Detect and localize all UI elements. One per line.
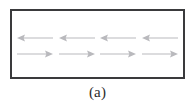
rightward-arrow (141, 48, 179, 60)
leftward-arrow (58, 32, 96, 44)
rightward-arrow (16, 48, 54, 60)
figure-border-box (10, 9, 185, 79)
leftward-arrow (141, 32, 179, 44)
rightward-arrow (99, 48, 137, 60)
figure-caption: (a) (0, 82, 195, 102)
arrow-row-rightward (16, 47, 179, 61)
arrow-row-leftward (16, 31, 179, 45)
rightward-arrow (58, 48, 96, 60)
leftward-arrow (99, 32, 137, 44)
figure-panel: (a) (0, 0, 195, 107)
leftward-arrow (16, 32, 54, 44)
